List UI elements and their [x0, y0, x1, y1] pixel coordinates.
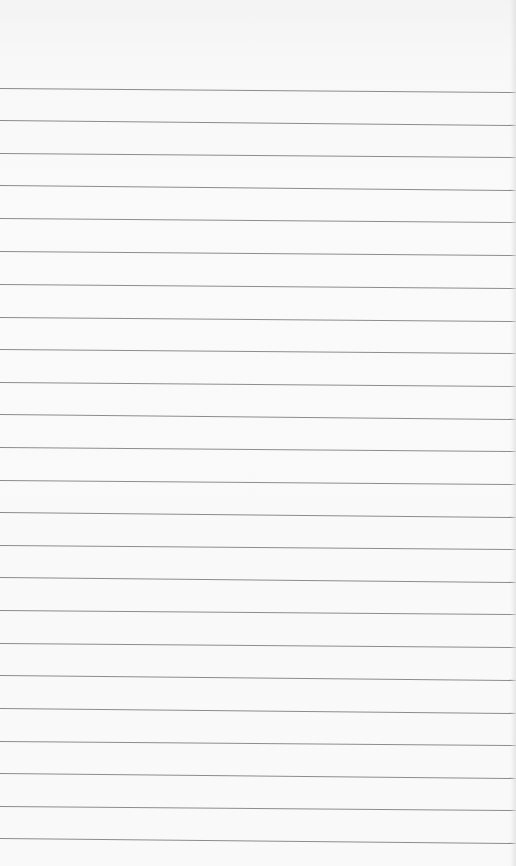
ruled-line — [0, 285, 516, 289]
ruled-line — [0, 513, 516, 518]
ruled-line — [0, 383, 516, 387]
ruled-line — [0, 89, 516, 93]
ruled-line — [0, 742, 516, 746]
ruled-line — [0, 578, 516, 583]
ruled-line — [0, 481, 516, 485]
ruled-line — [0, 350, 516, 354]
ruled-line — [0, 676, 516, 681]
ruled-line — [0, 709, 516, 714]
ruled-line — [0, 774, 516, 779]
ruled-line — [0, 415, 516, 420]
ruled-line — [0, 546, 516, 550]
ruled-line — [0, 186, 516, 191]
ruled-line — [0, 219, 516, 223]
ruled-line — [0, 839, 516, 844]
lined-paper — [0, 0, 516, 866]
ruled-line — [0, 252, 516, 256]
ruled-line — [0, 611, 516, 615]
ruled-line — [0, 448, 516, 452]
ruled-line — [0, 318, 516, 322]
ruled-line — [0, 121, 516, 126]
ruled-line — [0, 644, 516, 648]
ruled-line — [0, 154, 516, 158]
ruled-lines — [0, 0, 516, 866]
ruled-line — [0, 807, 516, 811]
